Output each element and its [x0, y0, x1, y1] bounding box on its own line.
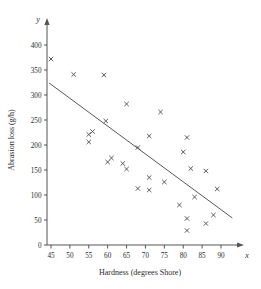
x-axis-variable-symbol: x [244, 251, 249, 260]
x-tick-label: 65 [123, 252, 131, 260]
x-tick-label: 60 [104, 252, 112, 260]
y-tick-label: 350 [31, 67, 42, 75]
axes-group [44, 18, 244, 248]
x-tick-label: 75 [161, 252, 169, 260]
x-axis-arrowhead [237, 242, 244, 247]
x-tick-label: 85 [199, 252, 207, 260]
data-point-marker [215, 187, 219, 191]
data-point-marker [185, 216, 189, 220]
data-point-marker [87, 140, 91, 144]
y-tick-label: 250 [31, 117, 42, 125]
y-axis-variable-symbol: y [35, 15, 40, 24]
data-point-marker [105, 160, 109, 164]
abrasion-loss-scatter-figure: 0501001502002503003504004550556065707580… [0, 0, 261, 289]
regression-line-segment [49, 83, 232, 218]
data-point-marker [158, 110, 162, 114]
scatter-plot-svg: 0501001502002503003504004550556065707580… [0, 0, 261, 289]
y-tick-label: 400 [31, 42, 42, 50]
data-point-marker [121, 161, 125, 165]
ticks-group: 0501001502002503003504004550556065707580… [31, 42, 225, 260]
x-tick-label: 80 [180, 252, 188, 260]
y-tick-label: 0 [38, 242, 42, 250]
y-tick-label: 50 [34, 217, 42, 225]
axis-labels-group: Hardness (degrees Shore)Abrasion loss (g… [7, 15, 249, 277]
y-tick-label: 100 [31, 192, 42, 200]
x-tick-label: 45 [47, 252, 55, 260]
data-point-marker [104, 119, 108, 123]
data-point-marker [124, 167, 128, 171]
y-tick-label: 300 [31, 92, 42, 100]
x-tick-label: 90 [217, 252, 225, 260]
y-axis-title: Abrasion loss (g/h) [7, 109, 16, 171]
data-point-marker [147, 188, 151, 192]
data-point-marker [147, 134, 151, 138]
data-points-group [49, 57, 220, 233]
x-tick-label: 50 [66, 252, 74, 260]
data-point-marker [204, 169, 208, 173]
y-axis-arrowhead [44, 18, 49, 25]
data-point-marker [102, 73, 106, 77]
data-point-marker [124, 102, 128, 106]
regression-line [49, 83, 232, 218]
data-point-marker [189, 166, 193, 170]
data-point-marker [181, 150, 185, 154]
data-point-marker [192, 195, 196, 199]
data-point-marker [109, 156, 113, 160]
data-point-marker [49, 57, 53, 61]
y-tick-label: 200 [31, 142, 42, 150]
data-point-marker [177, 203, 181, 207]
data-point-marker [204, 221, 208, 225]
data-point-marker [136, 186, 140, 190]
data-point-marker [90, 129, 94, 133]
data-point-marker [87, 132, 91, 136]
x-tick-label: 55 [85, 252, 93, 260]
x-tick-label: 70 [142, 252, 150, 260]
data-point-marker [211, 213, 215, 217]
data-point-marker [71, 72, 75, 76]
data-point-marker [147, 175, 151, 179]
data-point-marker [185, 135, 189, 139]
x-axis-title: Hardness (degrees Shore) [99, 268, 182, 277]
data-point-marker [185, 228, 189, 232]
y-tick-label: 150 [31, 167, 42, 175]
data-point-marker [162, 180, 166, 184]
